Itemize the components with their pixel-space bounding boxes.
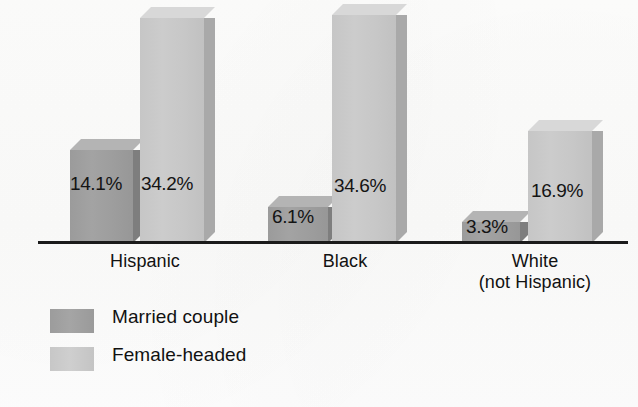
bar-front-face (140, 18, 204, 243)
bar-front-face (70, 150, 133, 243)
legend-label-married-couple: Married couple (112, 306, 239, 328)
bar-front-face (332, 15, 396, 243)
category-label-black: Black (255, 251, 435, 272)
category-label-hispanic: Hispanic (55, 251, 235, 272)
bar-side-face (204, 18, 215, 243)
bar-top-face (332, 4, 407, 15)
bar-hispanic-female (140, 18, 204, 243)
plot-area: 14.1% 34.2% 6.1% 34.6% 3.3% 16.9% Hispan… (0, 0, 638, 407)
bar-black-female (332, 15, 396, 243)
legend-swatch-married-couple (50, 309, 94, 333)
value-label-hispanic-female: 34.2% (141, 173, 193, 195)
value-label-black-female: 34.6% (334, 175, 386, 197)
bar-side-face (592, 131, 603, 243)
bar-top-face (528, 120, 603, 131)
legend-label-female-headed: Female-headed (112, 344, 246, 366)
category-label-line1: White (512, 251, 559, 271)
value-label-black-married: 6.1% (272, 206, 314, 228)
bar-top-face (70, 139, 144, 150)
bar-top-face (140, 7, 215, 18)
x-axis-line (38, 241, 628, 244)
bar-side-face (396, 15, 407, 243)
bar-hispanic-married (70, 150, 133, 243)
category-label-line1: Black (323, 251, 368, 271)
value-label-hispanic-married: 14.1% (70, 173, 122, 195)
category-label-line2: (not Hispanic) (445, 272, 625, 293)
category-label-line1: Hispanic (110, 251, 180, 271)
value-label-white-female: 16.9% (531, 180, 583, 202)
value-label-white-married: 3.3% (466, 216, 508, 238)
chart-page: 14.1% 34.2% 6.1% 34.6% 3.3% 16.9% Hispan… (0, 0, 638, 407)
category-label-white: White (not Hispanic) (445, 251, 625, 293)
legend-swatch-female-headed (50, 347, 94, 371)
